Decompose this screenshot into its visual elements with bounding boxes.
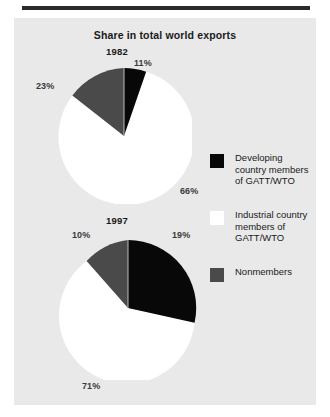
- pie-1997-year-label: 1997: [106, 215, 128, 226]
- pie-1997-label-industrial: 71%: [82, 381, 100, 391]
- pie-1997-label-nonmembers: 10%: [72, 230, 90, 240]
- legend-swatch-black-icon: [210, 154, 224, 168]
- pie-chart-1982: [56, 68, 192, 204]
- top-divider-rule: [22, 6, 310, 10]
- pie-1997-label-developing: 19%: [172, 230, 190, 240]
- pie-1982-label-nonmembers: 23%: [36, 81, 54, 91]
- chart-title: Share in total world exports: [14, 29, 316, 41]
- legend-swatch-gray-icon: [210, 268, 224, 282]
- pie-1982-label-developing: 11%: [134, 58, 152, 68]
- pie-chart-1997: [56, 236, 200, 380]
- pie-1982-year-label: 1982: [106, 46, 128, 57]
- legend-label-nonmembers: Nonmembers: [235, 266, 315, 278]
- chart-panel: Share in total world exports 1982 11% 23…: [14, 18, 316, 405]
- legend-swatch-white-icon: [210, 211, 224, 225]
- legend-label-industrial: Industrial country members of GATT/WTO: [235, 209, 315, 244]
- figure-root: Share in total world exports 1982 11% 23…: [0, 0, 330, 417]
- legend-label-developing: Developing country members of GATT/WTO: [235, 152, 315, 187]
- pie-1982-label-industrial: 66%: [180, 186, 198, 196]
